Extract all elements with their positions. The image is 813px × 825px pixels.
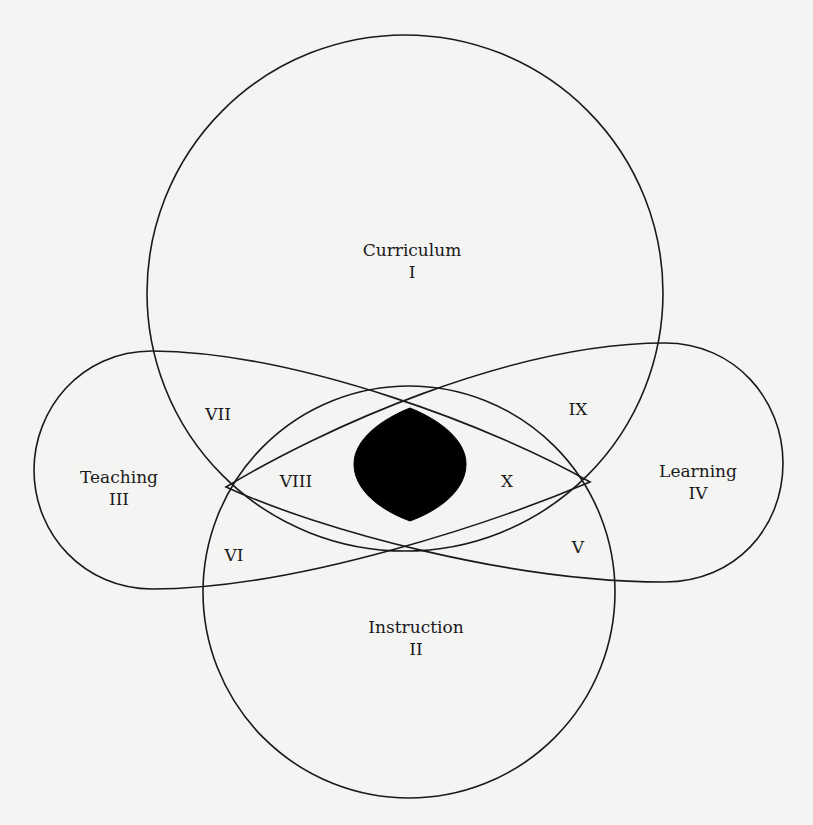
curriculum-numeral: I xyxy=(363,261,462,283)
region-ix-label: IX xyxy=(569,398,588,420)
teaching-label: Teaching III xyxy=(80,466,158,510)
region-v-label: V xyxy=(572,536,584,558)
curriculum-label: Curriculum I xyxy=(363,239,462,283)
teaching-name: Teaching xyxy=(80,466,158,488)
venn-diagram xyxy=(0,0,813,825)
learning-numeral: IV xyxy=(659,482,737,504)
region-x-label: X xyxy=(501,470,513,492)
instruction-label: Instruction II xyxy=(368,616,463,660)
learning-label: Learning IV xyxy=(659,460,737,504)
center-overlap-region xyxy=(354,408,466,521)
instruction-name: Instruction xyxy=(368,616,463,638)
region-viii-label: VIII xyxy=(280,470,312,492)
region-vi-label: VI xyxy=(225,544,244,566)
learning-name: Learning xyxy=(659,460,737,482)
region-vii-label: VII xyxy=(205,403,231,425)
teaching-numeral: III xyxy=(80,488,158,510)
instruction-numeral: II xyxy=(368,638,463,660)
curriculum-name: Curriculum xyxy=(363,239,462,261)
